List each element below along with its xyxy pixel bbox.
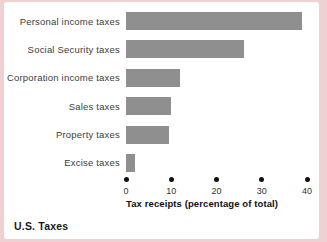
bar-track	[126, 69, 327, 87]
category-label: Property taxes	[0, 129, 120, 140]
chart-row: Property taxes	[0, 126, 327, 144]
bar-track	[126, 40, 327, 58]
category-label: Corporation income taxes	[0, 72, 120, 83]
bar	[126, 69, 180, 87]
bar	[126, 12, 302, 30]
category-label: Excise taxes	[0, 157, 120, 168]
category-label: Social Security taxes	[0, 44, 120, 55]
x-axis-label: Tax receipts (percentage of total)	[126, 198, 278, 209]
chart-row: Social Security taxes	[0, 40, 327, 58]
bar	[126, 97, 171, 115]
category-label: Personal income taxes	[0, 16, 120, 27]
bar	[126, 40, 244, 58]
bar-track	[126, 97, 327, 115]
figure: Personal income taxesSocial Security tax…	[0, 0, 327, 242]
chart-row: Sales taxes	[0, 97, 327, 115]
bar-track	[126, 154, 327, 172]
chart-row: Personal income taxes	[0, 12, 327, 30]
bar	[126, 154, 135, 172]
bar-track	[126, 126, 327, 144]
figure-caption: U.S. Taxes	[14, 220, 68, 232]
chart-row: Excise taxes	[0, 154, 327, 172]
bar-track	[126, 12, 327, 30]
bar	[126, 126, 169, 144]
chart-row: Corporation income taxes	[0, 69, 327, 87]
bar-rows: Personal income taxesSocial Security tax…	[0, 12, 327, 182]
category-label: Sales taxes	[0, 101, 120, 112]
